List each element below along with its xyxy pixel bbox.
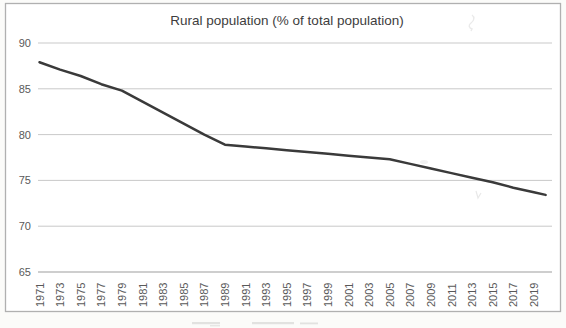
x-axis-tick-label: 1983 [157, 283, 169, 307]
y-axis-tick-label: 85 [19, 83, 31, 95]
x-axis-tick-label: 1985 [178, 283, 190, 307]
x-axis-tick-label: 2007 [404, 283, 416, 307]
smudge-mid [420, 160, 428, 164]
x-axis-tick-label: 2013 [466, 283, 478, 307]
y-axis-tick-label: 80 [19, 129, 31, 141]
y-axis-tick-label: 75 [19, 174, 31, 186]
x-axis-tick-label: 1989 [219, 283, 231, 307]
x-axis-tick-label: 2001 [343, 283, 355, 307]
x-axis-tick-label: 2011 [446, 283, 458, 307]
x-axis-tick-label: 2015 [487, 283, 499, 307]
chart-title: Rural population (% of total population) [170, 13, 403, 28]
x-axis-tick-label: 1987 [198, 283, 210, 307]
x-axis-tick-label: 1975 [75, 283, 87, 307]
x-axis-tick-label: 1991 [240, 283, 252, 307]
chart-border [6, 4, 561, 312]
y-axis-tick-label: 90 [19, 37, 31, 49]
x-axis-tick-label: 1995 [281, 283, 293, 307]
rural-population-chart: Rural population (% of total population)… [0, 0, 566, 328]
cropped-caption-remnant [192, 322, 318, 326]
y-axis-tick-label: 65 [19, 266, 31, 278]
y-axis-tick-label: 70 [19, 220, 31, 232]
scanned-chart-figure: Rural population (% of total population)… [0, 0, 566, 328]
x-axis-tick-label: 1993 [260, 283, 272, 307]
x-axis-tick-label: 2019 [528, 283, 540, 307]
x-axis-tick-label: 1979 [116, 283, 128, 307]
x-axis-tick-label: 1981 [137, 283, 149, 307]
x-axis-tick-label: 1997 [301, 283, 313, 307]
x-axis-tick-label: 1973 [54, 283, 66, 307]
x-axis-tick-label: 2005 [384, 283, 396, 307]
x-axis-tick-label: 2009 [425, 283, 437, 307]
x-axis-tick-label: 2017 [507, 283, 519, 307]
x-axis-tick-label: 1977 [95, 283, 107, 307]
x-axis-tick-label: 1971 [34, 283, 46, 307]
x-axis-tick-label: 1999 [322, 283, 334, 307]
x-axis-tick-label: 2003 [363, 283, 375, 307]
